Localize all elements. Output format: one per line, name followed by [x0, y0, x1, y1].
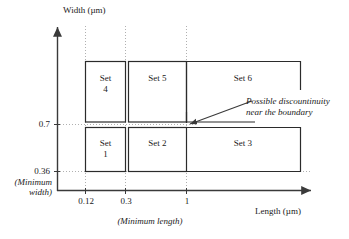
region-box-set-5: [129, 62, 187, 123]
region-label-set-4-line1: Set: [100, 73, 112, 83]
y-tick-label-0-36: 0.36: [8, 166, 50, 176]
y-axis-note-line1: (Minimum: [0, 177, 52, 187]
region-label-set-3: Set 3: [198, 138, 288, 149]
region-label-set-1-line1: Set: [100, 138, 112, 148]
figure-canvas: Width (µm) 0.7 0.36 (Minimum width) 0.12…: [0, 0, 349, 239]
boundary-discontinuity-lines: [187, 122, 256, 128]
x-axis-title: Length (µm): [255, 206, 301, 216]
x-tick-label-1: 1: [169, 196, 205, 206]
region-label-set-3-line1: Set 3: [234, 138, 252, 148]
region-label-set-5-line1: Set 5: [148, 73, 166, 83]
annotation-leader-arrow: [190, 101, 252, 124]
annotation-text-line2: near the boundary: [246, 107, 313, 118]
y-axis-note-line2: width): [0, 187, 52, 197]
y-axis-title: Width (µm): [63, 5, 106, 15]
region-label-set-1-line2: 1: [103, 149, 108, 159]
region-box-set-2: [129, 128, 187, 172]
y-tick-label-0-7: 0.7: [8, 119, 50, 129]
annotation-text-line1: Possible discountinuity: [246, 96, 330, 107]
region-label-set-2-line1: Set 2: [148, 138, 166, 148]
vertical-gridlines: [86, 26, 187, 190]
region-label-set-5: Set 5: [128, 73, 187, 84]
x-axis-note: (Minimum length): [80, 216, 220, 226]
region-box-set-3: [187, 128, 301, 172]
region-label-set-4-line2: 4: [103, 84, 108, 94]
region-label-set-4: Set 4: [85, 73, 126, 94]
region-label-set-6-line1: Set 6: [234, 73, 252, 83]
region-label-set-2: Set 2: [128, 138, 187, 149]
x-tick-label-0-3: 0.3: [108, 196, 144, 206]
region-label-set-6: Set 6: [198, 73, 288, 84]
region-label-set-1: Set 1: [85, 138, 126, 159]
x-tick-label-0-12: 0.12: [68, 196, 104, 206]
